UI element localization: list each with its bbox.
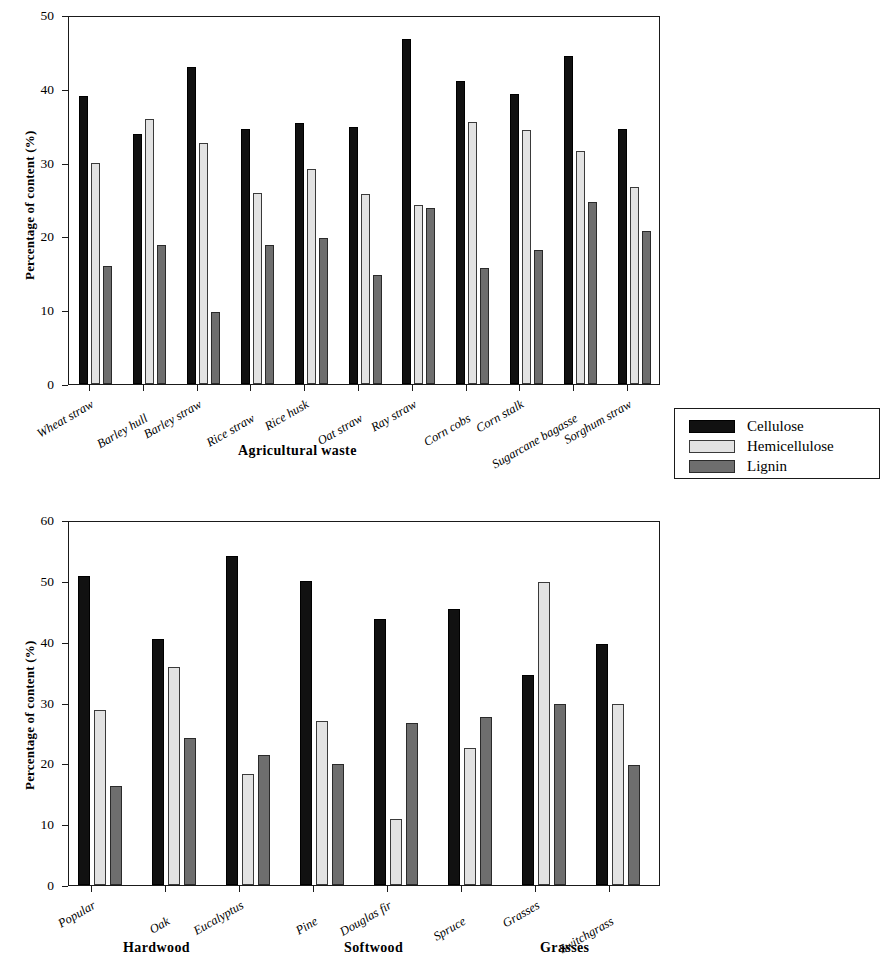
- chart1-bars: [69, 17, 659, 384]
- x-tick-mark: [250, 385, 251, 391]
- legend-swatch-cellulose-icon: [689, 420, 735, 433]
- bar-cellulose: [618, 129, 627, 384]
- chart2-bars: [69, 522, 659, 885]
- bar-cellulose: [79, 96, 88, 384]
- bar-hemicellulose: [576, 151, 585, 384]
- y-tick-label: 20: [22, 229, 54, 245]
- bar-hemicellulose: [630, 187, 639, 384]
- bar-lignin: [373, 275, 382, 384]
- bar-cellulose: [374, 619, 386, 885]
- bar-cellulose: [510, 94, 519, 384]
- x-tick-label: Corn cobs: [421, 411, 473, 450]
- legend-label-cellulose: Cellulose: [747, 419, 804, 434]
- bar-cellulose: [295, 123, 304, 384]
- legend-box: Cellulose Hemicellulose Lignin: [674, 408, 880, 479]
- legend-swatch-lignin-icon: [689, 460, 735, 473]
- y-tick-label: 20: [22, 756, 54, 772]
- bar-lignin: [588, 202, 597, 384]
- x-tick-mark: [412, 385, 413, 391]
- bar-lignin: [110, 786, 122, 885]
- bar-hemicellulose: [94, 710, 106, 885]
- chart1-x-axis-title: Agricultural waste: [238, 443, 357, 459]
- bar-cellulose: [448, 609, 460, 885]
- bar-lignin: [426, 208, 435, 384]
- bar-cellulose: [152, 639, 164, 885]
- y-tick-label: 30: [22, 696, 54, 712]
- chart2-group-label-grasses: Grasses: [540, 940, 589, 956]
- y-tick-label: 60: [22, 513, 54, 529]
- x-tick-label: Wheat straw: [34, 397, 96, 441]
- chart2-group-label-hardwood: Hardwood: [123, 940, 190, 956]
- bar-cellulose: [226, 556, 238, 885]
- bar-hemicellulose: [390, 819, 402, 885]
- y-tick-label: 30: [22, 156, 54, 172]
- x-tick-mark: [304, 385, 305, 391]
- bar-hemicellulose: [522, 130, 531, 384]
- x-tick-label: Rice husk: [262, 397, 311, 434]
- x-tick-label: Grasses: [500, 898, 542, 931]
- chart1-plot-area: [68, 16, 660, 385]
- legend-item-hemicellulose: Hemicellulose: [689, 438, 834, 455]
- x-tick-mark: [461, 886, 462, 892]
- bar-hemicellulose: [464, 748, 476, 885]
- bar-cellulose: [133, 134, 142, 384]
- bar-lignin: [480, 268, 489, 384]
- bar-cellulose: [187, 67, 196, 384]
- x-tick-label: Popular: [56, 898, 99, 931]
- y-tick-label: 40: [22, 635, 54, 651]
- y-tick-label: 0: [22, 377, 54, 393]
- x-tick-mark: [466, 385, 467, 391]
- x-tick-mark: [573, 385, 574, 391]
- bar-hemicellulose: [145, 119, 154, 384]
- x-tick-label: Oak: [147, 914, 173, 937]
- x-tick-mark: [313, 886, 314, 892]
- x-tick-mark: [609, 886, 610, 892]
- bar-hemicellulose: [91, 163, 100, 384]
- x-tick-label: Douglas fir: [337, 898, 394, 940]
- bar-hemicellulose: [307, 169, 316, 384]
- bar-lignin: [211, 312, 220, 384]
- legend-item-cellulose: Cellulose: [689, 418, 804, 435]
- bar-hemicellulose: [253, 193, 262, 384]
- bar-lignin: [157, 245, 166, 384]
- bar-cellulose: [564, 56, 573, 384]
- x-tick-mark: [519, 385, 520, 391]
- x-tick-mark: [358, 385, 359, 391]
- bar-lignin: [265, 245, 274, 384]
- x-tick-label: Ray straw: [368, 397, 419, 435]
- chart1-y-axis-title: Percentage of content (%): [22, 130, 38, 280]
- legend-item-lignin: Lignin: [689, 458, 787, 475]
- bar-hemicellulose: [538, 582, 550, 885]
- x-tick-mark: [627, 385, 628, 391]
- y-tick-label: 50: [22, 574, 54, 590]
- x-tick-label: Eucalyptus: [191, 898, 247, 939]
- chart2-group-label-softwood: Softwood: [344, 940, 403, 956]
- x-tick-mark: [387, 886, 388, 892]
- bar-hemicellulose: [199, 143, 208, 384]
- bar-lignin: [103, 266, 112, 384]
- x-tick-mark: [239, 886, 240, 892]
- y-tick-label: 10: [22, 303, 54, 319]
- x-tick-mark: [89, 385, 90, 391]
- chart-panel-wood-grasses: Percentage of content (%) 6050403020100 …: [0, 505, 680, 963]
- bar-cellulose: [596, 644, 608, 886]
- x-tick-mark: [91, 886, 92, 892]
- chart2-plot-area: [68, 521, 660, 886]
- bar-hemicellulose: [316, 721, 328, 885]
- y-tick-label: 0: [22, 878, 54, 894]
- bar-lignin: [406, 723, 418, 885]
- bar-cellulose: [522, 675, 534, 885]
- bar-hemicellulose: [361, 194, 370, 384]
- bar-lignin: [319, 238, 328, 384]
- x-tick-label: Spruce: [431, 914, 469, 944]
- bar-lignin: [480, 717, 492, 886]
- y-tick-mark: [62, 886, 68, 887]
- bar-cellulose: [300, 581, 312, 885]
- bar-hemicellulose: [414, 205, 423, 384]
- y-tick-label: 40: [22, 82, 54, 98]
- legend-swatch-hemicellulose-icon: [689, 440, 735, 453]
- x-tick-mark: [165, 886, 166, 892]
- bar-lignin: [642, 231, 651, 384]
- x-tick-label: Pine: [293, 914, 320, 938]
